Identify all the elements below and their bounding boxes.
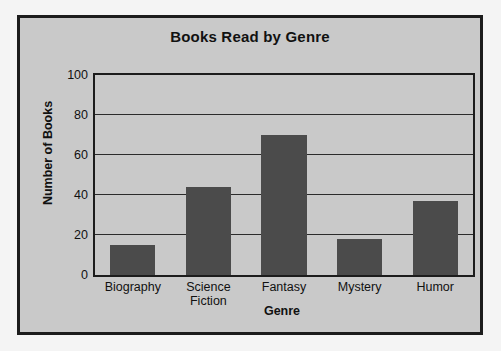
bar-group: Mystery <box>322 75 398 275</box>
y-axis-tick-label: 100 <box>67 68 88 82</box>
bar <box>110 245 155 275</box>
bar <box>337 239 382 275</box>
x-axis-tick-label: Biography <box>105 280 161 294</box>
bar-group: Fantasy <box>246 75 322 275</box>
chart-figure: Books Read by Genre Number of Books 0204… <box>0 0 501 351</box>
y-axis-tick-label: 40 <box>74 188 88 202</box>
x-axis-tick-label: Humor <box>416 280 454 294</box>
bar-series: BiographyScience FictionFantasyMysteryHu… <box>95 75 473 275</box>
bar-group: Biography <box>95 75 171 275</box>
chart-panel: Books Read by Genre Number of Books 0204… <box>17 15 483 335</box>
y-axis-title: Number of Books <box>41 73 55 233</box>
plot-area: 020406080100 BiographyScience FictionFan… <box>93 73 475 277</box>
y-axis-tick-label: 20 <box>74 228 88 242</box>
y-axis-tick-label: 80 <box>74 108 88 122</box>
y-axis-tick-label: 60 <box>74 148 88 162</box>
bar-group: Science Fiction <box>171 75 247 275</box>
bar <box>261 135 306 275</box>
bar <box>186 187 231 275</box>
x-axis-title: Genre <box>93 304 471 318</box>
bar-group: Humor <box>397 75 473 275</box>
y-axis-tick-label: 0 <box>81 268 88 282</box>
bar <box>413 201 458 275</box>
x-axis-tick-label: Mystery <box>338 280 382 294</box>
chart-title: Books Read by Genre <box>20 28 480 45</box>
x-axis-tick-label: Fantasy <box>262 280 306 294</box>
